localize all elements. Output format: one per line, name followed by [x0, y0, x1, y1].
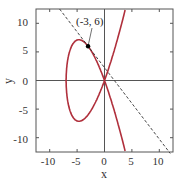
x-axis-label: x	[101, 167, 107, 181]
point-annotation: (-3, 6)	[76, 15, 104, 28]
y-tick-neg10: -10	[13, 133, 28, 145]
x-tick-5: 5	[128, 155, 134, 167]
curves	[60, 9, 171, 153]
chart: 10 5 0 -5 -10 -10 -5 0 5 10 x y (-3, 6)	[0, 0, 181, 183]
y-tick-10: 10	[17, 16, 29, 28]
x-tick-neg10: -10	[41, 155, 56, 167]
annotation-leader	[88, 28, 92, 46]
x-tick-0: 0	[101, 155, 107, 167]
y-tick-0: 0	[23, 75, 29, 87]
tangent-line	[60, 9, 171, 153]
y-tick-5: 5	[23, 44, 29, 56]
x-tick-neg5: -5	[71, 155, 81, 167]
y-axis-label: y	[1, 78, 15, 84]
y-tick-neg5: -5	[19, 104, 29, 116]
x-tick-10: 10	[153, 155, 165, 167]
tangent-point	[86, 44, 90, 48]
